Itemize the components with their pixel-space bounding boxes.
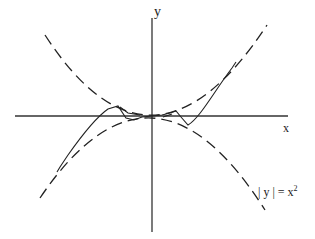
x-axis-label: x bbox=[283, 121, 289, 136]
equation-text: | y | = x bbox=[258, 185, 294, 199]
envelope-equation-label: | y | = x2 bbox=[258, 184, 298, 200]
upper-parabola bbox=[45, 25, 267, 115]
y-axis-label: y bbox=[154, 4, 161, 20]
squeeze-diagram bbox=[0, 0, 315, 239]
equation-exponent: 2 bbox=[294, 184, 298, 193]
